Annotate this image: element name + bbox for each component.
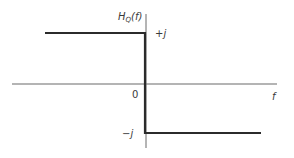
response-curve [45, 33, 261, 133]
x-axis-label: f [272, 91, 277, 102]
diagram-canvas: HQ(f) +j 0 f −j [0, 0, 294, 158]
lower-level-label: −j [122, 128, 133, 139]
origin-label: 0 [132, 89, 138, 100]
y-axis-label: HQ(f) [118, 11, 142, 24]
upper-level-label: +j [155, 28, 166, 39]
